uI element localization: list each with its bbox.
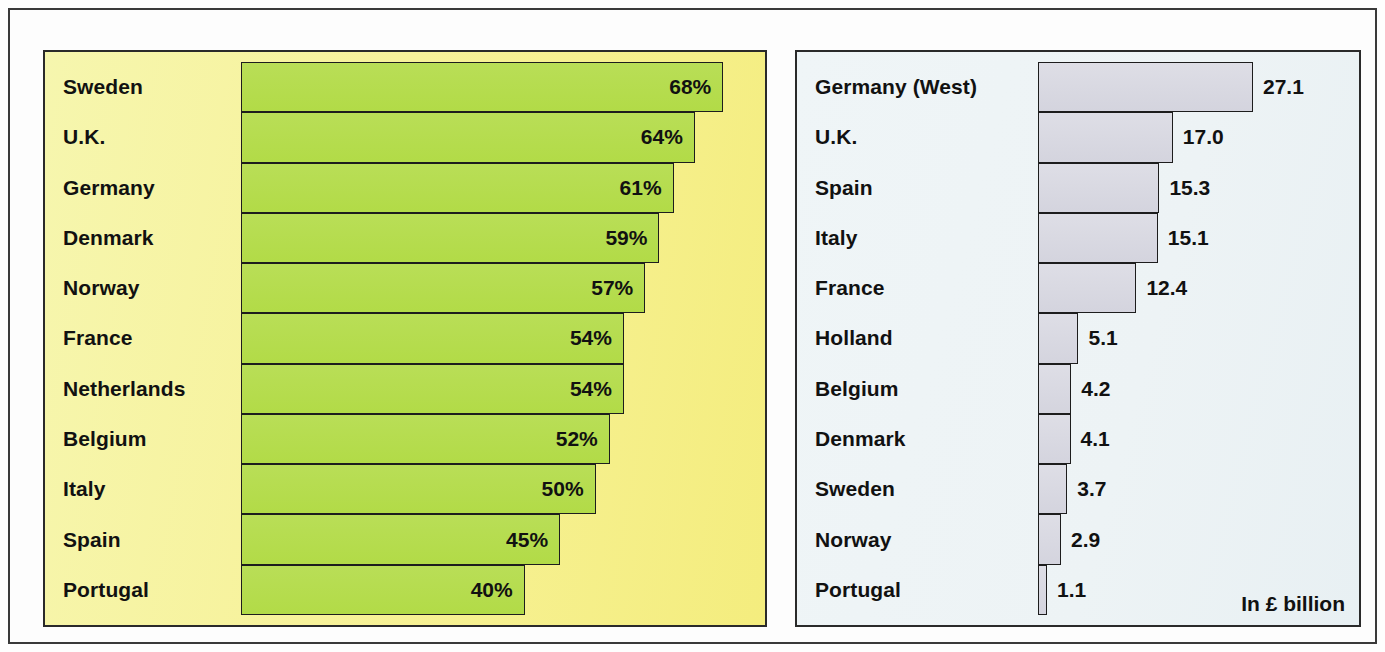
value-bar [241, 414, 610, 464]
units-caption: In £ billion [1241, 592, 1345, 616]
bar-value-label: 4.1 [1081, 427, 1110, 451]
row-category-label: Denmark [63, 226, 154, 250]
chart-row: Netherlands54% [45, 364, 765, 414]
value-bar [241, 213, 659, 263]
value-bar [241, 163, 674, 213]
value-bar [1038, 163, 1159, 213]
value-bar [1038, 464, 1067, 514]
value-bar [1038, 565, 1047, 615]
row-category-label: Sweden [63, 75, 143, 99]
bar-value-label: 45% [506, 528, 548, 552]
row-category-label: Spain [63, 528, 121, 552]
chart-row: Belgium52% [45, 414, 765, 464]
bar-value-label: 61% [620, 176, 662, 200]
chart-row: Belgium4.2 [797, 364, 1359, 414]
value-bar [241, 364, 624, 414]
row-category-label: Germany (West) [815, 75, 977, 99]
bar-value-label: 17.0 [1183, 125, 1224, 149]
value-bar [1038, 364, 1071, 414]
left-chart-panel: Sweden68%U.K.64%Germany61%Denmark59%Norw… [43, 50, 767, 627]
row-category-label: Holland [815, 326, 893, 350]
bar-value-label: 12.4 [1146, 276, 1187, 300]
chart-row: Spain15.3 [797, 163, 1359, 213]
value-bar [1038, 414, 1071, 464]
row-category-label: Germany [63, 176, 155, 200]
bar-value-label: 54% [570, 326, 612, 350]
value-bar [1038, 514, 1061, 564]
bar-value-label: 50% [542, 477, 584, 501]
chart-row: U.K.17.0 [797, 112, 1359, 162]
bar-value-label: 5.1 [1088, 326, 1117, 350]
row-category-label: Italy [815, 226, 858, 250]
bar-value-label: 1.1 [1057, 578, 1086, 602]
chart-row: Sweden3.7 [797, 464, 1359, 514]
chart-row: Denmark4.1 [797, 414, 1359, 464]
chart-row: Holland5.1 [797, 313, 1359, 363]
value-bar [241, 112, 695, 162]
value-bar [1038, 313, 1078, 363]
row-category-label: Italy [63, 477, 106, 501]
bar-value-label: 15.3 [1169, 176, 1210, 200]
bar-value-label: 52% [556, 427, 598, 451]
chart-row: Germany61% [45, 163, 765, 213]
chart-row: Portugal40% [45, 565, 765, 615]
bar-value-label: 64% [641, 125, 683, 149]
value-bar [1038, 213, 1158, 263]
row-category-label: France [63, 326, 132, 350]
value-bar [241, 263, 645, 313]
row-category-label: Belgium [815, 377, 899, 401]
value-bar [1038, 112, 1173, 162]
value-bar [241, 62, 723, 112]
bar-value-label: 4.2 [1081, 377, 1110, 401]
bar-value-label: 59% [605, 226, 647, 250]
bar-value-label: 15.1 [1168, 226, 1209, 250]
bar-value-label: 54% [570, 377, 612, 401]
row-category-label: Norway [63, 276, 139, 300]
value-bar [1038, 62, 1253, 112]
bar-value-label: 40% [471, 578, 513, 602]
bar-value-label: 27.1 [1263, 75, 1304, 99]
chart-row: Italy50% [45, 464, 765, 514]
left-chart-rows: Sweden68%U.K.64%Germany61%Denmark59%Norw… [45, 52, 765, 625]
bar-value-label: 57% [591, 276, 633, 300]
chart-row: Norway2.9 [797, 514, 1359, 564]
bar-value-label: 68% [669, 75, 711, 99]
chart-row: Germany (West)27.1 [797, 62, 1359, 112]
bar-value-label: 3.7 [1077, 477, 1106, 501]
row-category-label: Norway [815, 528, 891, 552]
value-bar [1038, 263, 1136, 313]
row-category-label: U.K. [815, 125, 857, 149]
chart-row: Spain45% [45, 514, 765, 564]
row-category-label: Spain [815, 176, 873, 200]
chart-row: France54% [45, 313, 765, 363]
right-chart-rows: Germany (West)27.1U.K.17.0Spain15.3Italy… [797, 52, 1359, 625]
row-category-label: U.K. [63, 125, 105, 149]
chart-row: Italy15.1 [797, 213, 1359, 263]
chart-row: Denmark59% [45, 213, 765, 263]
row-category-label: France [815, 276, 884, 300]
figure-root: Sweden68%U.K.64%Germany61%Denmark59%Norw… [0, 0, 1385, 652]
row-category-label: Portugal [63, 578, 149, 602]
row-category-label: Netherlands [63, 377, 185, 401]
row-category-label: Sweden [815, 477, 895, 501]
row-category-label: Belgium [63, 427, 147, 451]
row-category-label: Denmark [815, 427, 906, 451]
chart-row: Sweden68% [45, 62, 765, 112]
bar-value-label: 2.9 [1071, 528, 1100, 552]
value-bar [241, 313, 624, 363]
chart-row: Norway57% [45, 263, 765, 313]
right-chart-panel: Germany (West)27.1U.K.17.0Spain15.3Italy… [795, 50, 1361, 627]
chart-row: U.K.64% [45, 112, 765, 162]
row-category-label: Portugal [815, 578, 901, 602]
chart-row: France12.4 [797, 263, 1359, 313]
outer-frame: Sweden68%U.K.64%Germany61%Denmark59%Norw… [8, 8, 1377, 644]
